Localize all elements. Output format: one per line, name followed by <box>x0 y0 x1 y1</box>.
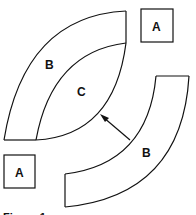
label-a-top: A <box>152 20 161 34</box>
figure-caption: Figure 1 <box>3 211 46 215</box>
arrow-shaft <box>103 117 130 140</box>
label-a-bottom: A <box>15 166 24 180</box>
label-b-right: B <box>142 146 151 160</box>
label-b-left: B <box>45 58 54 72</box>
quilt-pattern-diagram: A B C B A Figure 1 <box>0 0 196 215</box>
label-c: C <box>77 85 86 99</box>
